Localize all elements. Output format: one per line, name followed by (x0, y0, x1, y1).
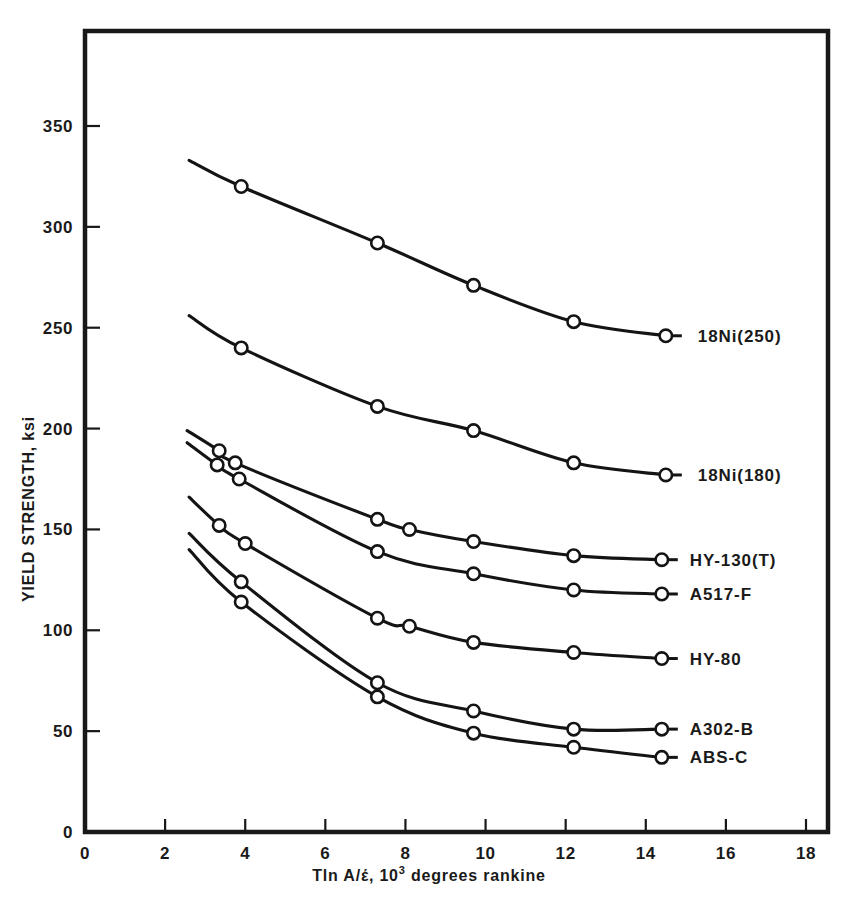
data-point-marker (567, 584, 579, 596)
data-point-marker (371, 677, 383, 689)
data-point-marker (213, 445, 225, 457)
data-point-marker (467, 535, 479, 547)
data-point-marker (567, 457, 579, 469)
data-point-marker (235, 596, 247, 608)
series-label: A517-F (690, 585, 752, 604)
data-point-marker (660, 469, 672, 481)
y-axis-title-text: YIELD STRENGTH, ksi (20, 416, 37, 602)
x-tick-label: 16 (716, 844, 736, 863)
x-tick-label: 12 (556, 844, 576, 863)
data-point-marker (229, 457, 241, 469)
data-point-marker (213, 519, 225, 531)
data-point-marker (371, 400, 383, 412)
chart-background (0, 0, 858, 907)
data-point-marker (567, 741, 579, 753)
data-point-marker (656, 652, 668, 664)
x-axis-title: Tln A/έ, 103 degrees rankine (312, 864, 545, 884)
data-point-marker (467, 424, 479, 436)
data-point-marker (567, 549, 579, 561)
data-point-marker (371, 237, 383, 249)
x-tick-label: 0 (80, 844, 90, 863)
series-label: ABS-C (690, 748, 748, 767)
x-tick-label: 18 (796, 844, 816, 863)
data-point-marker (660, 330, 672, 342)
data-point-marker (656, 723, 668, 735)
data-point-marker (467, 727, 479, 739)
data-point-marker (235, 180, 247, 192)
x-axis-title-text: Tln A/έ, 103 degrees rankine (312, 864, 545, 884)
data-point-marker (235, 576, 247, 588)
y-tick-label: 150 (43, 520, 73, 539)
series-label: 18Ni(250) (698, 327, 782, 346)
y-tick-label: 0 (63, 823, 73, 842)
data-point-marker (467, 636, 479, 648)
data-point-marker (403, 620, 415, 632)
series-label: HY-130(T) (690, 551, 777, 570)
figure-container: 024681012141618 050100150200250300350 18… (0, 0, 858, 907)
data-point-marker (656, 588, 668, 600)
y-axis-title: YIELD STRENGTH, ksi (20, 416, 37, 602)
data-point-marker (371, 513, 383, 525)
x-tick-label: 10 (476, 844, 496, 863)
series-label: HY-80 (690, 650, 742, 669)
data-point-marker (371, 612, 383, 624)
data-point-marker (211, 459, 223, 471)
y-tick-label: 250 (43, 319, 73, 338)
y-tick-label: 200 (43, 420, 73, 439)
x-tick-label: 6 (320, 844, 330, 863)
series-label: A302-B (690, 720, 754, 739)
y-tick-label: 100 (43, 621, 73, 640)
y-tick-label: 300 (43, 218, 73, 237)
y-tick-label: 350 (43, 117, 73, 136)
data-point-marker (371, 691, 383, 703)
data-point-marker (567, 315, 579, 327)
data-point-marker (239, 537, 251, 549)
x-tick-label: 14 (636, 844, 656, 863)
data-point-marker (467, 568, 479, 580)
data-point-marker (371, 545, 383, 557)
data-point-marker (467, 705, 479, 717)
x-tick-label: 2 (160, 844, 170, 863)
data-point-marker (567, 723, 579, 735)
data-point-marker (233, 473, 245, 485)
data-point-marker (403, 523, 415, 535)
series-label: 18Ni(180) (698, 466, 782, 485)
data-point-marker (467, 279, 479, 291)
data-point-marker (235, 342, 247, 354)
data-point-marker (567, 646, 579, 658)
y-tick-label: 50 (53, 722, 73, 741)
yield-strength-chart: 024681012141618 050100150200250300350 18… (0, 0, 858, 907)
x-tick-label: 4 (240, 844, 250, 863)
data-point-marker (656, 553, 668, 565)
data-point-marker (656, 751, 668, 763)
x-tick-label: 8 (400, 844, 410, 863)
